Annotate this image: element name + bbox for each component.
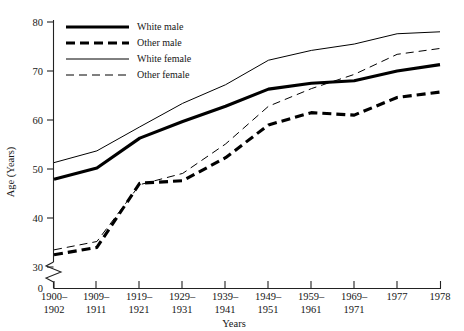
legend-label-other-female: Other female <box>137 69 190 80</box>
legend-label-white-male: White male <box>137 21 184 32</box>
y-tick-label-50: 50 <box>33 164 44 175</box>
x-tick-label-9-top: 1978 <box>430 291 451 302</box>
x-tick-label-3-top: 1929– <box>169 291 196 302</box>
x-tick-label-2-top: 1919– <box>126 291 153 302</box>
series-line-white-male <box>54 65 440 180</box>
x-tick-label-0-top: 1900– <box>41 291 68 302</box>
x-tick-group <box>54 281 397 289</box>
life-expectancy-chart: 80 70 60 50 40 30 0 Age (Years) 1900– 19… <box>0 0 464 331</box>
series-line-other-female <box>54 48 440 249</box>
y-tick-label-80: 80 <box>33 17 44 28</box>
x-tick-label-6-bottom: 1961 <box>301 304 322 315</box>
x-tick-label-5-bottom: 1951 <box>258 304 279 315</box>
y-tick-label-40: 40 <box>33 213 44 224</box>
chart-svg: 80 70 60 50 40 30 0 Age (Years) 1900– 19… <box>0 0 464 331</box>
x-tick-label-8-top: 1977 <box>387 291 408 302</box>
y-tick-label-70: 70 <box>33 66 44 77</box>
x-tick-label-0-bottom: 1902 <box>44 304 65 315</box>
legend: White male Other male White female Other… <box>66 21 192 80</box>
y-tick-labels: 80 70 60 50 40 30 0 <box>33 17 44 294</box>
y-axis-title: Age (Years) <box>5 146 17 197</box>
legend-label-white-female: White female <box>137 53 192 64</box>
x-tick-label-1-bottom: 1911 <box>86 304 107 315</box>
x-tick-label-7-bottom: 1971 <box>344 304 365 315</box>
y-tick-label-60: 60 <box>33 115 44 126</box>
y-tick-label-30: 30 <box>33 262 44 273</box>
series-line-other-male <box>54 92 440 255</box>
x-tick-label-2-bottom: 1921 <box>129 304 150 315</box>
x-tick-label-6-top: 1959– <box>298 291 325 302</box>
axis-group <box>46 20 441 289</box>
x-axis-title: Years <box>222 318 245 329</box>
x-tick-label-3-bottom: 1931 <box>172 304 193 315</box>
x-tick-labels: 1900– 1902 1909– 1911 1919– 1921 1929– 1… <box>41 291 451 315</box>
y-tick-group <box>47 22 54 267</box>
x-tick-label-7-top: 1969– <box>341 291 368 302</box>
series-group <box>54 32 440 255</box>
legend-label-other-male: Other male <box>137 37 182 48</box>
x-tick-label-4-bottom: 1941 <box>215 304 236 315</box>
x-tick-label-4-top: 1939– <box>212 291 239 302</box>
x-tick-label-5-top: 1949– <box>255 291 282 302</box>
x-tick-label-1-top: 1909– <box>83 291 110 302</box>
